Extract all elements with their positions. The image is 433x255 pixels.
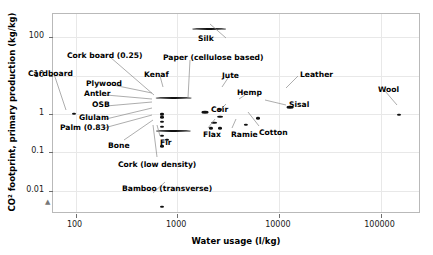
data-point-bamboo-transverse — [160, 206, 164, 208]
data-label-glulam: Glulam — [79, 114, 109, 122]
data-point-sisal — [256, 117, 260, 119]
data-label-cardboard: Cardboard — [28, 70, 73, 78]
data-label-sisal: Sisal — [289, 101, 309, 109]
x-tick-label-0: 100 — [35, 221, 115, 229]
x-tick-label-3: 100000 — [340, 221, 420, 229]
gridline-vertical — [279, 14, 280, 212]
x-tick-label-1: 1000 — [136, 221, 216, 229]
data-point-hemp — [217, 116, 223, 118]
data-point-cotton — [244, 124, 248, 126]
data-label-wool: Wool — [378, 86, 399, 94]
data-label-palm-0-83: Palm (0.83) — [60, 124, 109, 132]
x-tick-mark — [279, 214, 280, 218]
y-tick-mark — [49, 152, 53, 153]
x-axis-title: Water usage (l/kg) — [52, 236, 420, 246]
data-label-silk: Silk — [198, 35, 214, 43]
data-point-palm-0-83 — [156, 130, 190, 132]
data-label-osb: OSB — [92, 101, 110, 109]
data-label-cotton: Cotton — [259, 129, 288, 137]
x-tick-mark — [381, 214, 382, 218]
y-tick-mark — [49, 37, 53, 38]
data-point-wool — [397, 114, 401, 116]
data-point-coir — [211, 121, 217, 123]
y-axis-min-glyph: ▲ — [45, 198, 50, 206]
data-label-plywood: Plywood — [86, 80, 122, 88]
x-tick-label-2: 10000 — [238, 221, 318, 229]
data-label-jute: Jute — [222, 72, 239, 80]
data-label-flax: Flax — [203, 131, 221, 139]
data-point-glulam — [160, 126, 164, 128]
data-label-antler: Antler — [84, 90, 110, 98]
data-point-antler — [160, 116, 164, 118]
gridline-horizontal — [53, 191, 419, 192]
data-point-kenaf — [155, 97, 192, 99]
data-label-hemp: Hemp — [237, 89, 262, 97]
data-point-bone — [160, 135, 164, 137]
x-tick-mark — [76, 214, 77, 218]
x-tick-mark — [177, 214, 178, 218]
y-tick-mark — [49, 114, 53, 115]
data-label-bone: Bone — [108, 142, 130, 150]
gridline-horizontal — [53, 37, 419, 38]
data-label-cork-low-density: Cork (low density) — [118, 161, 196, 169]
gridline-vertical — [381, 14, 382, 212]
data-label-bamboo-transverse: Bamboo (transverse) — [122, 185, 212, 193]
data-label-leather: Leather — [300, 71, 333, 79]
data-label-coir: Coir — [211, 106, 228, 114]
gridline-vertical — [177, 14, 178, 212]
y-tick-mark — [49, 191, 53, 192]
data-point-osb — [160, 121, 164, 123]
chart-figure: 1001010.10.01 100100010000100000 ▲ SilkP… — [0, 0, 433, 255]
data-label-ramie: Ramie — [231, 131, 258, 139]
data-label-cork-board-0-25: Cork board (0.25) — [67, 52, 143, 60]
data-label-kenaf: Kenaf — [144, 71, 169, 79]
data-point-silk — [192, 28, 226, 30]
data-label-paper-cellulose-based: Paper (cellulose based) — [163, 54, 263, 62]
y-axis-title: CO² footprint, primary production (kg/kg… — [7, 12, 19, 212]
gridline-horizontal — [53, 152, 419, 153]
data-label-fir: Fir — [160, 139, 172, 147]
